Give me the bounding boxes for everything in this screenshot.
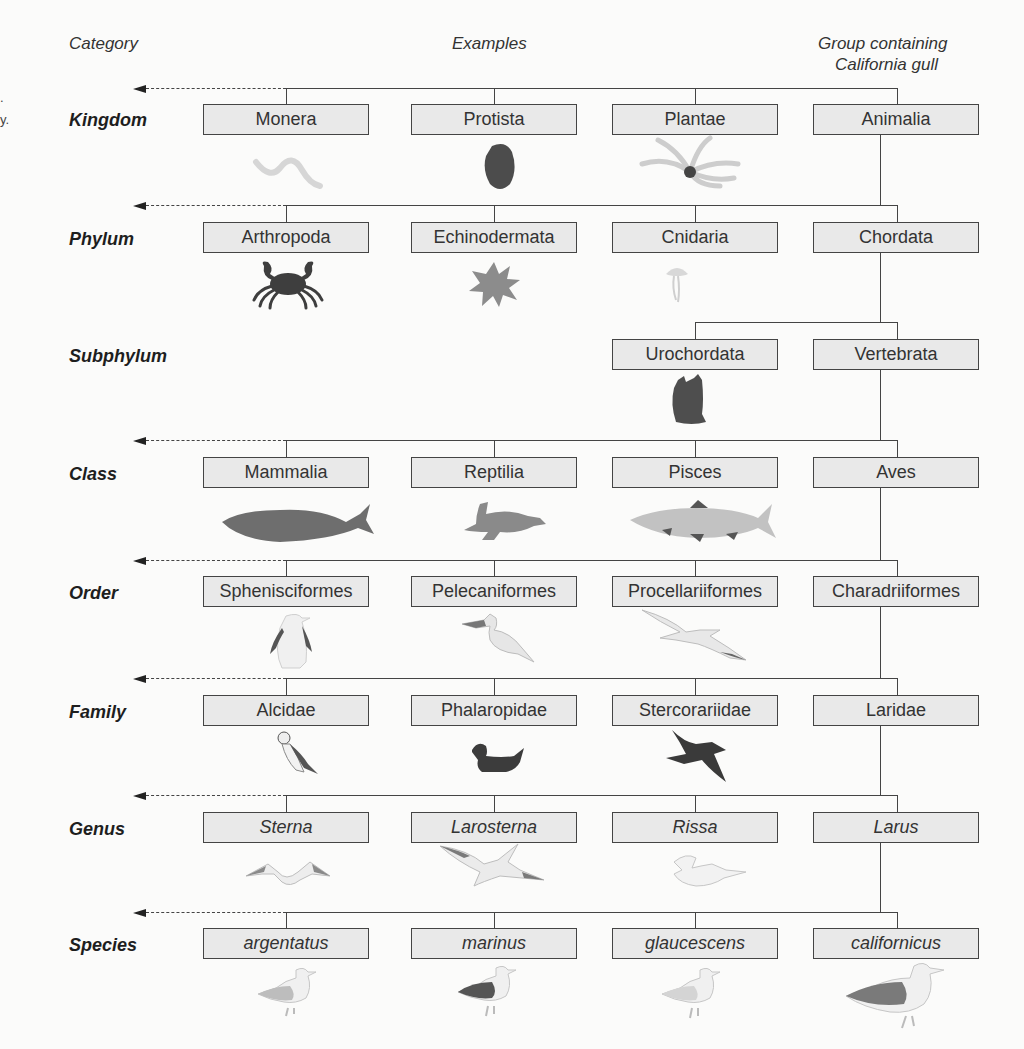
sea-squirt-icon (670, 374, 706, 426)
taxon-chordata: Chordata (813, 222, 979, 253)
branch-line (695, 88, 696, 104)
category-subphylum: Subphylum (69, 346, 167, 367)
taxon-vertebrata: Vertebrata (813, 339, 979, 370)
taxon-phalaropidae: Phalaropidae (411, 695, 577, 726)
arrow-left-icon (133, 85, 146, 93)
taxon-rissa: Rissa (612, 812, 778, 843)
taxon-urochordata: Urochordata (612, 339, 778, 370)
branch-line (286, 795, 287, 812)
taxon-charadriiformes: Charadriiformes (813, 576, 979, 607)
branch-line (286, 440, 287, 457)
dashed-connector (146, 440, 286, 441)
dashed-connector (146, 678, 286, 679)
kittiwake-icon (666, 852, 750, 890)
branch-line (897, 795, 898, 812)
rank-connector (286, 205, 897, 206)
branch-line (286, 88, 287, 104)
whale-icon (220, 502, 376, 544)
rank-connector (286, 440, 897, 441)
arrow-left-icon (133, 557, 146, 565)
jellyfish-icon (662, 262, 692, 304)
taxon-echinodermata: Echinodermata (411, 222, 577, 253)
taxon-reptilia: Reptilia (411, 457, 577, 488)
branch-line (494, 678, 495, 695)
category-genus: Genus (69, 819, 125, 840)
fish-icon (626, 498, 778, 546)
bacterium-icon (250, 150, 330, 190)
rank-connector (286, 88, 897, 89)
branch-line (695, 322, 696, 339)
lineage-trunk (880, 843, 881, 912)
branch-line (897, 440, 898, 457)
black-backed-gull-icon (456, 962, 520, 1020)
lineage-trunk (880, 370, 881, 440)
header-group-line1: Group containing (818, 33, 947, 55)
category-kingdom: Kingdom (69, 110, 147, 131)
category-order: Order (69, 583, 118, 604)
dashed-connector (146, 560, 286, 561)
taxon-pelecaniformes: Pelecaniformes (411, 576, 577, 607)
branch-line (695, 205, 696, 222)
dashed-connector (146, 795, 286, 796)
taxon-larus: Larus (813, 812, 979, 843)
branch-line (286, 912, 287, 928)
category-species: Species (69, 935, 137, 956)
taxon-plantae: Plantae (612, 104, 778, 135)
pelican-icon (460, 612, 536, 664)
taxon-arthropoda: Arthropoda (203, 222, 369, 253)
dashed-connector (146, 912, 286, 913)
branch-line (897, 322, 898, 339)
branch-line (897, 560, 898, 576)
taxon-laridae: Laridae (813, 695, 979, 726)
puffin-icon (274, 730, 324, 776)
taxon-protista: Protista (411, 104, 577, 135)
taxon-alcidae: Alcidae (203, 695, 369, 726)
arrow-left-icon (133, 675, 146, 683)
taxon-argentatus: argentatus (203, 928, 369, 959)
taxon-monera: Monera (203, 104, 369, 135)
rank-connector (286, 912, 897, 913)
branch-line (494, 560, 495, 576)
dashed-connector (146, 205, 286, 206)
branch-line (897, 678, 898, 695)
penguin-icon (268, 612, 316, 670)
rank-connector (286, 678, 897, 679)
branch-line (286, 205, 287, 222)
taxon-mammalia: Mammalia (203, 457, 369, 488)
arrow-left-icon (133, 792, 146, 800)
branch-line (494, 795, 495, 812)
sea-star-icon (466, 260, 522, 308)
header-category: Category (69, 33, 138, 55)
branch-line (494, 88, 495, 104)
branch-line (286, 678, 287, 695)
cropped-caption-fragment: y. (0, 112, 9, 127)
taxon-cnidaria: Cnidaria (612, 222, 778, 253)
phalarope-icon (466, 740, 528, 776)
taxon-glaucescens: glaucescens (612, 928, 778, 959)
branch-line (695, 912, 696, 928)
albatross-icon (640, 608, 750, 664)
arrow-left-icon (133, 909, 146, 917)
branch-line (494, 912, 495, 928)
branch-line (494, 205, 495, 222)
arrow-left-icon (133, 437, 146, 445)
category-class: Class (69, 464, 117, 485)
lineage-trunk (880, 726, 881, 795)
branch-line (695, 678, 696, 695)
category-family: Family (69, 702, 126, 723)
crab-icon (250, 260, 326, 310)
category-phylum: Phylum (69, 229, 134, 250)
lineage-trunk (880, 488, 881, 560)
taxon-marinus: marinus (411, 928, 577, 959)
taxon-aves: Aves (813, 457, 979, 488)
branch-line (897, 88, 898, 104)
branch-line (695, 795, 696, 812)
branch-line (897, 912, 898, 928)
branch-line (695, 560, 696, 576)
taxon-sphenisciformes: Sphenisciformes (203, 576, 369, 607)
header-examples: Examples (452, 33, 527, 55)
taxon-procellariiformes: Procellariiformes (612, 576, 778, 607)
seaweed-icon (638, 136, 748, 190)
rank-connector (286, 560, 897, 561)
taxon-pisces: Pisces (612, 457, 778, 488)
